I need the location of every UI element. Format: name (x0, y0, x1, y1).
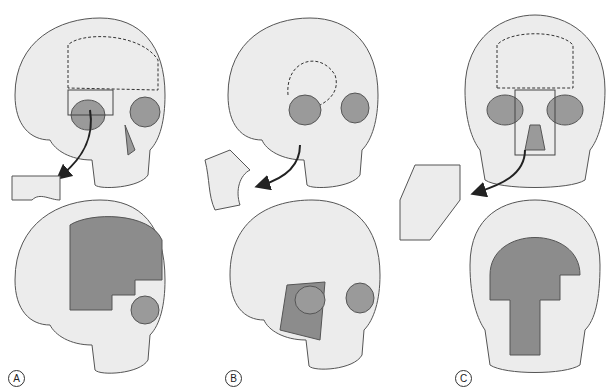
skull-osteotomy-figure (0, 0, 608, 391)
panel-c-bottom-skull (470, 200, 600, 373)
panel-label-c: C (455, 370, 472, 387)
panel-a-bone-fragment (12, 176, 60, 200)
panel-b-top-skull (228, 18, 378, 188)
panel-a-bottom-skull (15, 200, 165, 373)
panel-label-a: A (8, 370, 25, 387)
panel-a-top-skull (15, 18, 165, 188)
panel-label-b: B (225, 370, 242, 387)
panel-c-bone-fragment (400, 165, 460, 240)
panel-c-top-skull (465, 15, 605, 192)
panel-b-bone-fragment (205, 150, 250, 210)
panel-b-bottom-skull (230, 200, 380, 369)
